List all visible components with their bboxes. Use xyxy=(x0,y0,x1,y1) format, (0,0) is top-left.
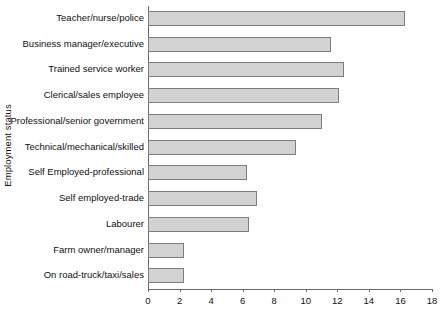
x-tick-label: 16 xyxy=(395,295,406,306)
category-label: Teacher/nurse/police xyxy=(56,10,144,26)
bar-row: Business manager/executive xyxy=(148,32,432,58)
bar xyxy=(148,243,184,258)
x-tick-label: 10 xyxy=(300,295,311,306)
category-label: Professional/senior government xyxy=(10,113,144,129)
x-axis-line xyxy=(148,289,432,290)
bar-row: Trained service worker xyxy=(148,57,432,83)
bottom-caption xyxy=(6,311,306,320)
y-axis-title: Employment status xyxy=(0,0,14,290)
bar-row: Farm owner/manager xyxy=(148,238,432,264)
x-tick-label: 14 xyxy=(364,295,375,306)
x-tick-mark xyxy=(180,289,181,292)
x-tick-mark xyxy=(148,289,149,292)
bar-row: Self employed-trade xyxy=(148,186,432,212)
x-tick-label: 8 xyxy=(272,295,277,306)
category-label: Self Employed-professional xyxy=(28,164,144,180)
bar xyxy=(148,11,405,26)
x-tick-label: 18 xyxy=(427,295,438,306)
bar-row: Professional/senior government xyxy=(148,109,432,135)
x-tick-label: 2 xyxy=(177,295,182,306)
category-label: Labourer xyxy=(106,216,144,232)
bar xyxy=(148,268,184,283)
x-tick-mark xyxy=(432,289,433,292)
x-tick-label: 12 xyxy=(332,295,343,306)
category-label: Farm owner/manager xyxy=(53,242,144,258)
bar-row: Labourer xyxy=(148,212,432,238)
bar xyxy=(148,114,322,129)
bar xyxy=(148,140,296,155)
bar xyxy=(148,165,247,180)
bar-row: Self Employed-professional xyxy=(148,160,432,186)
x-tick-mark xyxy=(369,289,370,292)
bar-row: Technical/mechanical/skilled xyxy=(148,135,432,161)
bar xyxy=(148,191,257,206)
x-tick-mark xyxy=(243,289,244,292)
bar-row: On road-truck/taxi/sales xyxy=(148,263,432,289)
x-tick-mark xyxy=(337,289,338,292)
x-tick-label: 4 xyxy=(208,295,213,306)
bar-row: Teacher/nurse/police xyxy=(148,6,432,32)
bar-chart: Employment status 024681012141618 Teache… xyxy=(0,0,441,320)
x-tick-label: 0 xyxy=(145,295,150,306)
category-label: Business manager/executive xyxy=(23,36,144,52)
category-label: Trained service worker xyxy=(48,61,144,77)
bar xyxy=(148,217,249,232)
category-label: Technical/mechanical/skilled xyxy=(25,139,144,155)
x-tick-mark xyxy=(211,289,212,292)
x-tick-mark xyxy=(306,289,307,292)
bar-row: Clerical/sales employee xyxy=(148,83,432,109)
x-tick-label: 6 xyxy=(240,295,245,306)
category-label: Clerical/sales employee xyxy=(44,87,144,103)
category-label: On road-truck/taxi/sales xyxy=(44,267,144,283)
x-tick-mark xyxy=(400,289,401,292)
bar xyxy=(148,62,344,77)
bar xyxy=(148,37,331,52)
plot-area: 024681012141618 Teacher/nurse/policeBusi… xyxy=(148,6,432,289)
x-tick-mark xyxy=(274,289,275,292)
bar xyxy=(148,88,339,103)
category-label: Self employed-trade xyxy=(59,190,144,206)
